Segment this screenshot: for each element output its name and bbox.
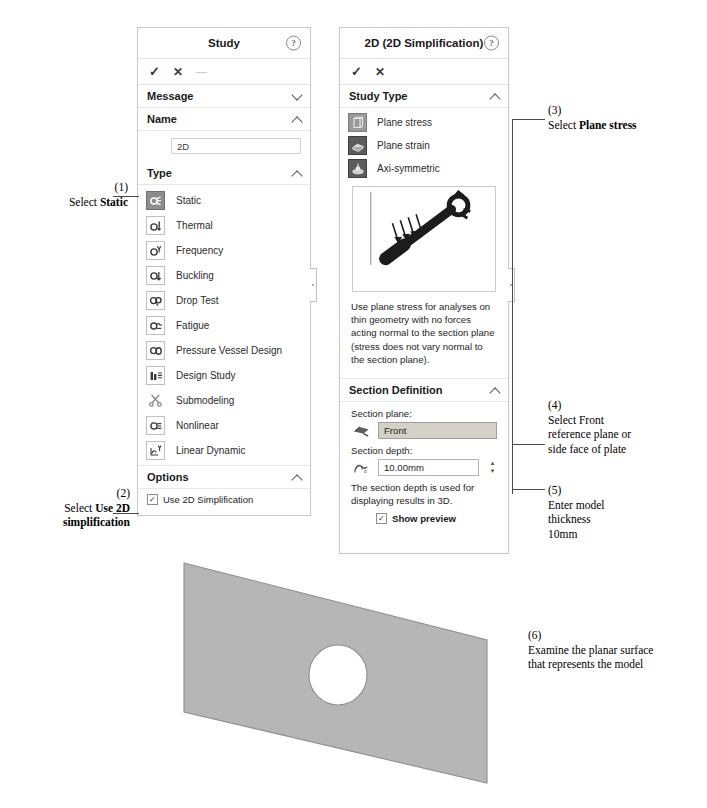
section-header-options[interactable]: Options: [138, 465, 310, 489]
fatigue-study-icon: [146, 316, 165, 335]
stepper-up-icon[interactable]: ▲: [490, 461, 496, 466]
nonlinear-study-icon: [146, 416, 165, 435]
pressure-vessel-icon: [146, 341, 165, 360]
linear-dynamic-icon: [146, 441, 165, 460]
study-type-item-nonlinear[interactable]: Nonlinear: [138, 413, 310, 438]
study-panel-dock-tab[interactable]: [310, 268, 317, 302]
study-panel-title-bar: Study ?: [138, 28, 310, 59]
chevron-down-icon[interactable]: [291, 89, 302, 100]
pin-button[interactable]: —: [196, 66, 207, 77]
study-type-label: Submodeling: [176, 395, 234, 406]
annotation-6: (6) Examine the planar surface that repr…: [528, 628, 703, 672]
section-label-options: Options: [147, 471, 189, 483]
annotation-number: (6): [528, 628, 703, 643]
thermal-study-icon: [146, 216, 165, 235]
section-header-type[interactable]: Type: [138, 162, 310, 185]
study-type-label: Static: [176, 195, 201, 206]
leader-line-4: [512, 444, 545, 445]
study-type-item-fatigue[interactable]: Fatigue: [138, 313, 310, 338]
leader-line-2: [113, 513, 139, 514]
annotation-number: (5): [548, 483, 698, 498]
study-command-row: ✓ ✕ —: [138, 59, 310, 85]
study-type-list: Static Thermal Frequency Buckling Drop T: [138, 185, 310, 465]
question-mark-icon[interactable]: ?: [286, 36, 301, 51]
stepper-down-icon[interactable]: ▼: [490, 469, 496, 474]
study-type-item-static[interactable]: Static: [138, 188, 310, 213]
section-depth-stepper[interactable]: ▲ ▼: [488, 459, 497, 476]
plane-stress-icon: [348, 113, 367, 132]
cancel-button[interactable]: ✕: [173, 66, 183, 78]
section-label-section-definition: Section Definition: [349, 384, 443, 396]
section-header-message[interactable]: Message: [138, 85, 310, 108]
accept-button[interactable]: ✓: [351, 65, 362, 78]
twod-panel-title-bar: 2D (2D Simplification) ?: [340, 28, 508, 59]
section-depth-row: n 10.00mm ▲ ▼: [351, 459, 497, 476]
planar-plate-with-hole: [160, 545, 510, 795]
section-depth-label: Section depth:: [351, 445, 508, 456]
section-plane-input[interactable]: Front: [378, 422, 497, 439]
annotation-text: Select Plane stress: [548, 119, 637, 131]
study-type-option-label: Axi-symmetric: [377, 163, 440, 174]
annotation-3: (3) Select Plane stress: [548, 103, 698, 132]
leader-line-1: [113, 196, 139, 197]
buckling-study-icon: [146, 266, 165, 285]
study-type-item-linear-dynamic[interactable]: Linear Dynamic: [138, 438, 310, 463]
section-header-study-type[interactable]: Study Type: [340, 85, 508, 108]
chevron-up-icon[interactable]: [291, 474, 302, 485]
chevron-up-icon[interactable]: [291, 116, 302, 127]
use-2d-simplification-row[interactable]: ✓ Use 2D Simplification: [138, 489, 310, 510]
study-type-item-buckling[interactable]: Buckling: [138, 263, 310, 288]
frequency-study-icon: [146, 241, 165, 260]
study-type-item-design-study[interactable]: Design Study: [138, 363, 310, 388]
annotation-text: Select Front reference plane or side fac…: [548, 414, 631, 455]
study-type-option-list: Plane stress Plane strain Axi-symmetric: [340, 108, 508, 180]
accept-button[interactable]: ✓: [149, 65, 160, 78]
cancel-button[interactable]: ✕: [375, 66, 385, 78]
annotation-2: (2) Select Use 2D simplification: [12, 486, 130, 530]
study-type-label: Nonlinear: [176, 420, 219, 431]
study-type-label: Design Study: [176, 370, 235, 381]
chevron-up-icon[interactable]: [291, 170, 302, 181]
chevron-up-icon[interactable]: [489, 93, 500, 104]
use-2d-simplification-label: Use 2D Simplification: [163, 494, 253, 505]
study-type-label: Pressure Vessel Design: [176, 345, 282, 356]
show-preview-checkbox[interactable]: ✓: [376, 513, 387, 524]
annotation-text: Enter model thickness 10mm: [548, 499, 605, 540]
study-type-option-axisymmetric[interactable]: Axi-symmetric: [340, 157, 508, 180]
static-study-icon: [146, 191, 165, 210]
study-type-item-drop-test[interactable]: Drop Test: [138, 288, 310, 313]
study-type-option-label: Plane strain: [377, 140, 430, 151]
study-name-input[interactable]: 2D: [171, 138, 301, 154]
design-study-icon: [146, 366, 165, 385]
study-type-item-submodeling[interactable]: Submodeling: [138, 388, 310, 413]
section-header-name[interactable]: Name: [138, 108, 310, 131]
section-header-section-definition[interactable]: Section Definition: [340, 378, 508, 402]
section-label-name: Name: [147, 113, 177, 125]
show-preview-row[interactable]: ✓ Show preview: [376, 513, 508, 524]
annotation-5: (5) Enter model thickness 10mm: [548, 483, 698, 541]
leader-line-5: [512, 489, 545, 490]
twod-command-row: ✓ ✕: [340, 59, 508, 85]
twod-simplification-panel: 2D (2D Simplification) ? ✓ ✕ Study Type …: [339, 27, 509, 554]
leader-spine-right: [512, 119, 513, 494]
chevron-up-icon[interactable]: [489, 387, 500, 398]
study-type-option-plane-strain[interactable]: Plane strain: [340, 134, 508, 157]
annotation-number: (3): [548, 103, 698, 118]
study-type-option-plane-stress[interactable]: Plane stress: [340, 111, 508, 134]
study-type-item-thermal[interactable]: Thermal: [138, 213, 310, 238]
annotation-4: (4) Select Front reference plane or side…: [548, 398, 698, 456]
plane-stress-description: Use plane stress for analyses on thin ge…: [351, 300, 497, 366]
annotation-number: (2): [12, 486, 130, 501]
study-property-panel: Study ? ✓ ✕ — Message Name 2D Type Stati…: [137, 27, 311, 516]
dock-handle-dot: [312, 284, 314, 286]
study-type-item-frequency[interactable]: Frequency: [138, 238, 310, 263]
annotation-number: (4): [548, 398, 698, 413]
study-type-label: Linear Dynamic: [176, 445, 245, 456]
section-depth-input[interactable]: 10.00mm: [378, 459, 479, 476]
plane-stress-wrench-illustration: [352, 186, 496, 292]
question-mark-icon[interactable]: ?: [484, 36, 499, 51]
page-title: Study: [208, 37, 240, 49]
use-2d-simplification-checkbox[interactable]: ✓: [147, 494, 158, 505]
study-type-item-pressure-vessel[interactable]: Pressure Vessel Design: [138, 338, 310, 363]
drop-test-study-icon: [146, 291, 165, 310]
